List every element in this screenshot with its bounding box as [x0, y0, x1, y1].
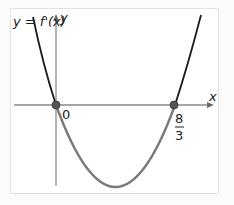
root-numerator: 8 — [175, 111, 183, 126]
curve-above-axis-right — [175, 15, 201, 105]
curve-above-axis-left — [33, 17, 56, 105]
curve-below-axis — [56, 105, 175, 187]
origin-label: 0 — [62, 107, 70, 122]
root-point-0 — [52, 101, 60, 109]
root-point-8-3 — [170, 101, 178, 109]
function-label: y = f'(x) — [12, 14, 66, 29]
y-axis-label: y — [59, 10, 68, 25]
derivative-graph: y = f'(x) y x 0 8 3 — [0, 0, 234, 205]
x-axis-label: x — [208, 89, 217, 104]
root-denominator: 3 — [175, 128, 183, 143]
